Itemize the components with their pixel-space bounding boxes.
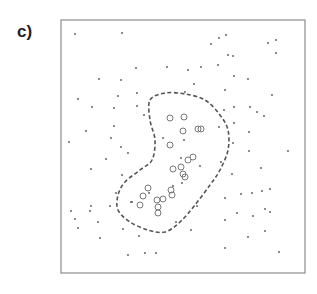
background-point xyxy=(138,235,140,237)
background-point xyxy=(85,130,87,132)
background-point xyxy=(218,126,220,128)
background-point xyxy=(249,106,251,108)
background-point xyxy=(121,32,123,34)
background-point xyxy=(117,95,119,97)
background-point xyxy=(148,192,150,194)
cluster-point xyxy=(181,114,187,120)
background-point xyxy=(210,43,212,45)
background-point xyxy=(287,150,289,152)
background-point xyxy=(135,67,137,69)
background-point xyxy=(223,109,225,111)
background-point xyxy=(183,139,185,141)
cluster-point xyxy=(167,115,173,121)
background-point xyxy=(90,168,92,170)
background-point xyxy=(175,221,177,223)
background-point xyxy=(232,55,234,57)
background-point xyxy=(187,69,189,71)
background-point xyxy=(162,137,164,139)
cluster-point xyxy=(137,202,143,208)
background-point xyxy=(260,167,262,169)
background-point xyxy=(224,247,226,249)
background-point xyxy=(261,190,263,192)
cluster-point xyxy=(178,164,184,170)
background-point xyxy=(225,34,227,36)
background-point xyxy=(143,114,145,116)
background-point xyxy=(89,210,91,212)
background-point xyxy=(68,141,70,143)
background-point xyxy=(155,252,157,254)
background-point xyxy=(144,252,146,254)
background-point xyxy=(233,75,235,77)
background-point xyxy=(233,106,235,108)
background-point xyxy=(127,254,129,256)
background-point xyxy=(252,215,254,217)
background-point xyxy=(166,66,168,68)
background-point xyxy=(136,92,138,94)
dashed-contour xyxy=(117,93,229,233)
background-point xyxy=(74,218,76,220)
cluster-point xyxy=(140,193,146,199)
background-point xyxy=(256,111,258,113)
background-point xyxy=(113,107,115,109)
background-point xyxy=(267,42,269,44)
background-point xyxy=(224,197,226,199)
cluster-point xyxy=(145,185,151,191)
background-point xyxy=(264,208,266,210)
background-point xyxy=(248,131,250,133)
background-point xyxy=(115,192,117,194)
background-point xyxy=(121,174,123,176)
background-point xyxy=(91,106,93,108)
background-point xyxy=(196,205,198,207)
background-point xyxy=(110,137,112,139)
background-point xyxy=(105,158,107,160)
background-point xyxy=(77,98,79,100)
background-point xyxy=(224,89,226,91)
background-point xyxy=(184,91,186,93)
background-point xyxy=(275,39,277,41)
background-point xyxy=(240,193,242,195)
cluster-point xyxy=(167,142,173,148)
background-point xyxy=(264,230,266,232)
background-point xyxy=(247,78,249,80)
background-point xyxy=(232,142,234,144)
background-point xyxy=(98,78,100,80)
background-point xyxy=(180,157,182,159)
background-point xyxy=(217,64,219,66)
background-point xyxy=(231,173,233,175)
background-point xyxy=(122,228,124,230)
background-point xyxy=(275,52,277,54)
background-point xyxy=(269,211,271,213)
background-point xyxy=(278,251,280,253)
plot-frame xyxy=(61,20,305,273)
background-point xyxy=(109,205,111,207)
background-point xyxy=(130,201,132,203)
background-point xyxy=(127,152,129,154)
background-point xyxy=(99,237,101,239)
background-point xyxy=(74,33,76,35)
cluster-point xyxy=(180,128,186,134)
cluster-point xyxy=(154,197,160,203)
cluster-point xyxy=(155,204,161,210)
background-point xyxy=(227,54,229,56)
background-point xyxy=(200,66,202,68)
background-point xyxy=(172,185,174,187)
background-point xyxy=(247,236,249,238)
background-point xyxy=(136,105,138,107)
background-point xyxy=(199,165,201,167)
background-point xyxy=(233,122,235,124)
background-point xyxy=(269,188,271,190)
background-point xyxy=(251,192,253,194)
background-point xyxy=(120,79,122,81)
background-point xyxy=(181,182,183,184)
background-point xyxy=(248,150,250,152)
background-point xyxy=(90,205,92,207)
background-point xyxy=(220,161,222,163)
cluster-point xyxy=(170,166,176,172)
background-point xyxy=(77,227,79,229)
background-point xyxy=(193,83,195,85)
cluster-point xyxy=(155,210,161,216)
background-point xyxy=(218,37,220,39)
background-point xyxy=(190,229,192,231)
background-point xyxy=(263,115,265,117)
scatter-plot xyxy=(0,0,317,294)
